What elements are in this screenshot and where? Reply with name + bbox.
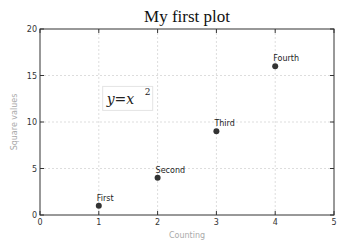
data-point: [213, 128, 219, 134]
equation-annotation: y=x2: [103, 86, 153, 110]
equation-exponent: 2: [145, 87, 151, 97]
scatter-chart: My first plot 012345 05101520 Counting S…: [0, 0, 349, 249]
x-tick-label: 3: [214, 218, 219, 227]
x-tick-label: 1: [96, 218, 101, 227]
x-tick-label: 4: [273, 218, 278, 227]
point-annotation: Fourth: [273, 54, 299, 63]
y-tick-label: 0: [32, 211, 37, 220]
x-axis-label: Counting: [169, 231, 205, 240]
point-annotation: Second: [156, 166, 185, 175]
y-tick-label: 20: [27, 25, 37, 34]
x-tick-label: 2: [155, 218, 160, 227]
point-annotation: Third: [213, 119, 234, 128]
point-annotation: First: [97, 194, 114, 203]
equation-text: y=x: [106, 91, 135, 107]
data-points: FirstSecondThirdFourth: [96, 54, 299, 209]
y-axis-label: Square values: [10, 94, 19, 151]
x-tick-label: 0: [37, 218, 42, 227]
y-tick-label: 10: [27, 118, 37, 127]
x-tick-label: 5: [331, 218, 336, 227]
data-point: [272, 63, 278, 69]
y-tick-label: 15: [27, 72, 37, 81]
data-point: [155, 175, 161, 181]
y-tick-label: 5: [32, 165, 37, 174]
chart-title: My first plot: [144, 7, 230, 26]
data-point: [96, 203, 102, 209]
